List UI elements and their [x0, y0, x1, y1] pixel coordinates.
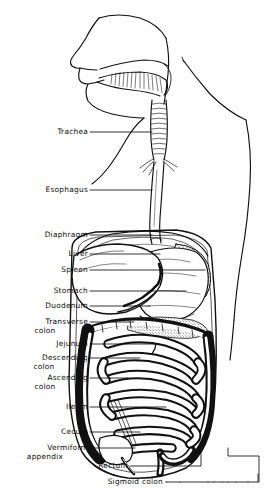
cecum-mass — [99, 435, 133, 464]
anatomy-figure: Trachea Esophagus Diaphragm Liver Spleen… — [0, 0, 267, 494]
digestive-system-illustration — [0, 0, 267, 494]
oral-cavity — [97, 60, 171, 96]
small-intestine — [101, 338, 201, 450]
ascending-colon-seg — [82, 330, 101, 458]
trachea-tube — [140, 100, 177, 175]
torso-outline — [230, 120, 251, 360]
